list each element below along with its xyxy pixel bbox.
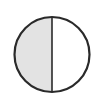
fraction-circle-diagram — [0, 0, 99, 101]
shaded-left-half — [15, 17, 53, 92]
